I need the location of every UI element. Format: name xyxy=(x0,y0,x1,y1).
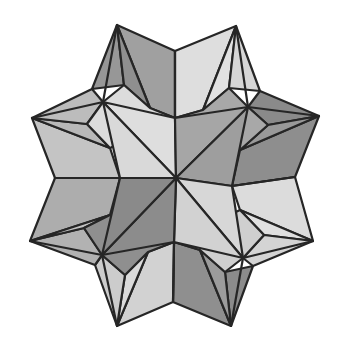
stellated-polyhedron-figure xyxy=(0,0,343,356)
edge-center-vertical-bottom xyxy=(173,242,174,302)
polyhedron-drawing xyxy=(0,0,343,356)
